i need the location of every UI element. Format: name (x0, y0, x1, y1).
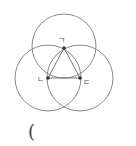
open-parenthesis: ( (28, 123, 35, 141)
three-circle-triangle-diagram: ㄱ ㄴ ㄷ (0, 0, 136, 146)
label-top-vertex: ㄱ (58, 36, 65, 45)
label-left-vertex: ㄴ (37, 75, 44, 84)
point-right (78, 76, 82, 80)
point-left (46, 76, 50, 80)
triangle (48, 48, 80, 78)
label-right-vertex: ㄷ (83, 78, 90, 87)
point-top (62, 46, 66, 50)
